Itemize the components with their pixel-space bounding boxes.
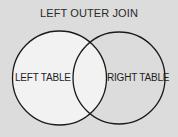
venn-diagram [0,0,178,137]
right-table-label: RIGHT TABLE [107,72,169,83]
left-table-label: LEFT TABLE [15,72,71,83]
diagram-title: LEFT OUTER JOIN [0,7,178,19]
